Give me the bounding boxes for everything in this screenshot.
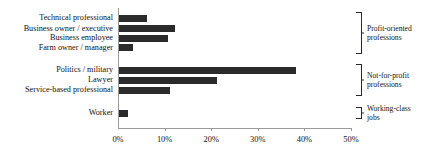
bar-chart: Technical professionalBusiness owner / e… <box>0 0 421 162</box>
group-label-line2: professions <box>367 80 402 89</box>
category-label: Business owner / executive <box>24 24 113 33</box>
brace-nub-icon <box>361 32 364 33</box>
category-label: Service-based professional <box>25 85 113 94</box>
bar <box>119 35 168 42</box>
group-label-line1: Not-for-profit <box>367 71 409 80</box>
brace-nub-icon <box>361 113 364 114</box>
x-axis-tick <box>211 128 212 131</box>
x-axis-tick-label: 20% <box>204 135 219 145</box>
bar <box>119 67 296 74</box>
bar <box>119 77 217 84</box>
x-axis-tick-label: 30% <box>250 135 265 145</box>
group-label-line1: Profit-oriented <box>367 24 412 33</box>
category-label: Politics / military <box>56 65 113 74</box>
x-axis-tick-label: 10% <box>157 135 172 145</box>
x-axis-tick <box>258 128 259 131</box>
bar <box>119 15 147 22</box>
x-axis-tick <box>304 128 305 131</box>
x-axis-tick <box>351 128 352 131</box>
group-label-line2: jobs <box>367 113 380 122</box>
bar <box>119 44 133 51</box>
x-axis-line <box>118 128 351 129</box>
group-annotations: Profit-orientedprofessionsNot-for-profit… <box>356 0 421 140</box>
category-label: Worker <box>89 108 113 117</box>
category-label: Farm owner / manager <box>39 43 113 52</box>
x-axis-tick-label: 40% <box>297 135 312 145</box>
bar <box>119 87 170 94</box>
x-axis-tick-label: 0% <box>112 135 123 145</box>
bar <box>119 110 128 117</box>
category-label: Lawyer <box>88 75 113 84</box>
group-label-line2: professions <box>367 33 402 42</box>
bar <box>119 25 175 32</box>
plot-area: 0%10%20%30%40%50% <box>118 8 351 128</box>
brace-nub-icon <box>361 80 364 81</box>
group-label-line1: Working-class <box>367 104 411 113</box>
category-label: Technical professional <box>39 13 113 22</box>
category-label: Business employee <box>50 33 113 42</box>
x-axis-tick <box>165 128 166 131</box>
category-label-column: Technical professionalBusiness owner / e… <box>0 0 116 128</box>
